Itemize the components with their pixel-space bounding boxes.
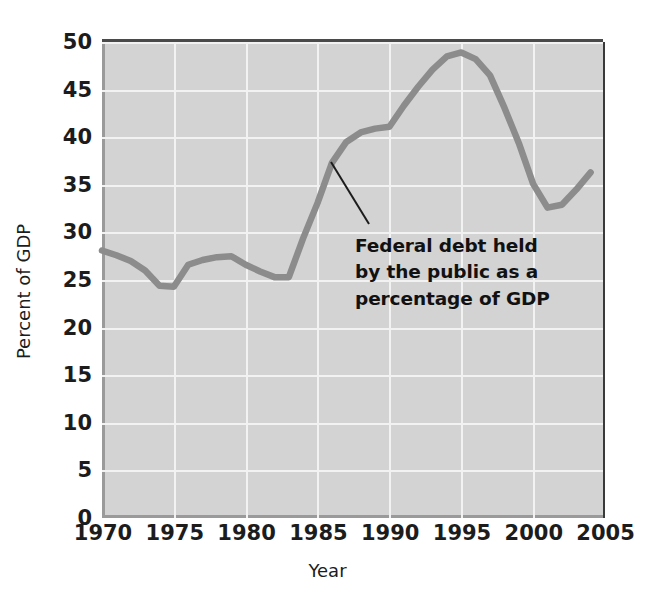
- y-tick-30: 30: [63, 222, 92, 243]
- y-axis-ticks: 50 45 40 35 30 25 20 15 10 5 0: [40, 0, 92, 611]
- gridline-y-20: [102, 328, 603, 330]
- x-tick-2005: 2005: [576, 523, 634, 544]
- y-axis-title: Percent of GDP: [13, 192, 34, 392]
- gridline-y-10: [102, 423, 603, 425]
- y-tick-35: 35: [63, 175, 92, 196]
- gridline-y-40: [102, 137, 603, 139]
- gridline-y-15: [102, 375, 603, 377]
- x-tick-2000: 2000: [505, 523, 563, 544]
- annotation-line-1: Federal debt held: [355, 233, 595, 259]
- y-tick-10: 10: [63, 413, 92, 434]
- y-tick-20: 20: [63, 318, 92, 339]
- gridline-y-5: [102, 470, 603, 472]
- annotation-label: Federal debt held by the public as a per…: [355, 233, 595, 312]
- annotation-line-2: by the public as a: [355, 259, 595, 285]
- y-tick-50: 50: [63, 32, 92, 53]
- gridline-x-1980: [246, 42, 248, 518]
- x-tick-1970: 1970: [74, 523, 132, 544]
- gridline-x-1975: [174, 42, 176, 518]
- y-tick-40: 40: [63, 127, 92, 148]
- gridline-x-1985: [317, 42, 319, 518]
- x-tick-1975: 1975: [146, 523, 204, 544]
- x-tick-1980: 1980: [217, 523, 275, 544]
- chart-container: 50 45 40 35 30 25 20 15 10 5 0 1970 1975…: [0, 0, 655, 611]
- x-tick-1995: 1995: [433, 523, 491, 544]
- gridline-y-45: [102, 90, 603, 92]
- annotation-line-3: percentage of GDP: [355, 286, 595, 312]
- x-tick-1990: 1990: [361, 523, 419, 544]
- y-tick-25: 25: [63, 270, 92, 291]
- gridline-y-35: [102, 185, 603, 187]
- y-tick-5: 5: [77, 460, 92, 481]
- y-tick-15: 15: [63, 365, 92, 386]
- gridline-y-50: [102, 42, 603, 44]
- x-tick-1985: 1985: [289, 523, 347, 544]
- x-axis-title: Year: [0, 560, 655, 581]
- y-tick-45: 45: [63, 80, 92, 101]
